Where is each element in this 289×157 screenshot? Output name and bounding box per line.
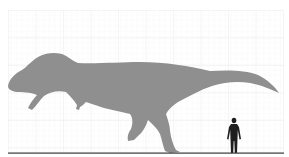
ground-line	[8, 153, 284, 154]
size-comparison-figure	[0, 0, 289, 157]
